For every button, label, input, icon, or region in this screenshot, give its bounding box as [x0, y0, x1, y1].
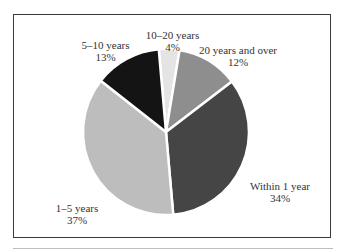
label-pct: 34%	[245, 192, 315, 204]
label-pct: 12%	[193, 56, 283, 68]
label-pct: 37%	[52, 214, 102, 226]
label-pct: 13%	[78, 51, 133, 63]
label-name: 5–10 years	[78, 39, 133, 51]
label-name: 20 years and over	[193, 44, 283, 56]
label-within-1-year: Within 1 year 34%	[245, 180, 315, 204]
label-1-5-years: 1–5 years 37%	[52, 202, 102, 226]
label-20-years-and-over: 20 years and over 12%	[193, 44, 283, 68]
label-name: 10–20 years	[145, 29, 200, 41]
label-10-20-years: 10–20 years 4%	[145, 29, 200, 53]
label-name: Within 1 year	[245, 180, 315, 192]
label-pct: 4%	[145, 41, 200, 53]
label-5-10-years: 5–10 years 13%	[78, 39, 133, 63]
label-name: 1–5 years	[52, 202, 102, 214]
